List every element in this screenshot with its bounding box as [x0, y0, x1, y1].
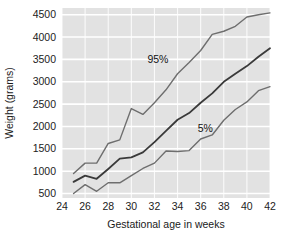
x-tick-label: 28: [102, 200, 114, 212]
chart-container: 95%5% 24262830323436384042 5001000150020…: [0, 0, 284, 244]
y-tick-label: 1500: [33, 142, 57, 154]
x-tick-label: 36: [195, 200, 207, 212]
y-tick-label: 4000: [33, 31, 57, 43]
x-tick-label: 32: [149, 200, 161, 212]
growth-chart-svg: 95%5% 24262830323436384042 5001000150020…: [0, 0, 284, 244]
x-axis-title: Gestational age in weeks: [107, 218, 224, 230]
x-tick-label: 26: [79, 200, 91, 212]
y-tick-label: 1000: [33, 165, 57, 177]
x-tick-label: 42: [264, 200, 276, 212]
x-tick-label: 24: [56, 200, 68, 212]
x-axis-tick-labels: 24262830323436384042: [56, 200, 276, 212]
x-tick-label: 30: [125, 200, 137, 212]
y-tick-label: 4500: [33, 8, 57, 20]
series-label-95pct: 95%: [147, 53, 168, 65]
y-tick-label: 3000: [33, 75, 57, 87]
series-label-5pct: 5%: [198, 122, 213, 134]
y-tick-label: 2000: [33, 120, 57, 132]
y-tick-label: 3500: [33, 53, 57, 65]
y-tick-label: 500: [38, 187, 56, 199]
y-axis-tick-labels: 50010001500200025003000350040004500: [33, 8, 57, 199]
x-tick-label: 40: [241, 200, 253, 212]
y-tick-label: 2500: [33, 98, 57, 110]
x-tick-label: 34: [172, 200, 184, 212]
x-tick-label: 38: [218, 200, 230, 212]
y-axis-title: Weight (grams): [3, 67, 15, 139]
